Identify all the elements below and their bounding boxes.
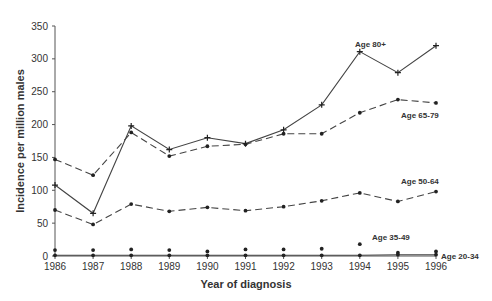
- y-axis-title: Incidence per million males: [14, 69, 26, 213]
- y-tick-label: 150: [31, 152, 48, 163]
- plus-marker-icon: [166, 147, 172, 153]
- x-tick-label: 1995: [387, 261, 410, 272]
- x-tick-label: 1992: [272, 261, 295, 272]
- y-tick-label: 200: [31, 119, 48, 130]
- dot-marker-icon: [282, 248, 286, 252]
- x-tick-label: 1986: [44, 261, 67, 272]
- series-line: [55, 192, 436, 225]
- series-label: Age 50-64: [401, 177, 439, 186]
- series-label: Age 65-79: [401, 111, 439, 120]
- x-axis-title: Year of diagnosis: [200, 278, 291, 290]
- dot-marker-icon: [206, 205, 210, 209]
- plus-marker-icon: [204, 135, 210, 141]
- series-age-65-79: Age 65-79: [53, 98, 439, 177]
- x-tick-label: 1994: [349, 261, 372, 272]
- x-tick-label: 1988: [120, 261, 143, 272]
- x-tick-label: 1991: [234, 261, 257, 272]
- dot-marker-icon: [244, 253, 248, 257]
- dot-marker-icon: [282, 253, 286, 257]
- x-tick-label: 1996: [425, 261, 448, 272]
- dot-marker-icon: [358, 253, 362, 257]
- dot-marker-icon: [320, 199, 324, 203]
- dot-marker-icon: [167, 248, 171, 252]
- dot-marker-icon: [320, 132, 324, 136]
- dot-marker-icon: [167, 209, 171, 213]
- dot-marker-icon: [358, 111, 362, 115]
- y-tick-label: 250: [31, 86, 48, 97]
- dot-marker-icon: [434, 253, 438, 257]
- dot-marker-icon: [434, 101, 438, 105]
- dot-marker-icon: [53, 158, 57, 162]
- dot-marker-icon: [167, 253, 171, 257]
- dot-marker-icon: [358, 191, 362, 195]
- dot-marker-icon: [91, 173, 95, 177]
- dot-marker-icon: [129, 253, 133, 257]
- dot-marker-icon: [434, 250, 438, 254]
- dot-marker-icon: [91, 253, 95, 257]
- series-age-50-64: Age 50-64: [53, 177, 439, 226]
- dot-marker-icon: [244, 248, 248, 252]
- dot-marker-icon: [244, 209, 248, 213]
- dot-marker-icon: [129, 131, 133, 135]
- x-tick-label: 1987: [82, 261, 105, 272]
- dot-marker-icon: [320, 247, 324, 251]
- series-line: [55, 100, 436, 176]
- dot-marker-icon: [358, 242, 362, 246]
- series-line: [55, 46, 436, 214]
- y-tick-label: 100: [31, 185, 48, 196]
- series-label: Age 35-49: [372, 233, 410, 242]
- dot-marker-icon: [91, 248, 95, 252]
- dot-marker-icon: [206, 250, 210, 254]
- y-tick-label: 50: [37, 218, 49, 229]
- dot-marker-icon: [53, 208, 57, 212]
- x-tick-label: 1990: [196, 261, 219, 272]
- series-group: Age 80+Age 65-79Age 50-64Age 35-49Age 20…: [52, 40, 479, 261]
- dot-marker-icon: [396, 253, 400, 257]
- dot-marker-icon: [129, 248, 133, 252]
- dot-marker-icon: [53, 253, 57, 257]
- dot-marker-icon: [282, 205, 286, 209]
- series-age-80-: Age 80+: [52, 40, 439, 216]
- x-tick-label: 1993: [311, 261, 334, 272]
- line-chart: 0501001502002503003501986198719881989199…: [0, 0, 492, 301]
- dot-marker-icon: [91, 223, 95, 227]
- dot-marker-icon: [282, 132, 286, 136]
- y-tick-label: 350: [31, 21, 48, 32]
- series-label: Age 20-34: [441, 252, 479, 261]
- y-tick-label: 300: [31, 53, 48, 64]
- x-tick-label: 1989: [158, 261, 181, 272]
- dot-marker-icon: [129, 202, 133, 206]
- series-age-35-49: Age 35-49: [53, 233, 438, 255]
- series-label: Age 80+: [355, 40, 386, 49]
- dot-marker-icon: [396, 98, 400, 102]
- plus-marker-icon: [128, 123, 134, 129]
- dot-marker-icon: [320, 253, 324, 257]
- dot-marker-icon: [434, 190, 438, 194]
- dot-marker-icon: [167, 154, 171, 158]
- dot-marker-icon: [206, 253, 210, 257]
- dot-marker-icon: [53, 248, 57, 252]
- dot-marker-icon: [206, 144, 210, 148]
- dot-marker-icon: [244, 142, 248, 146]
- y-tick-label: 0: [42, 251, 48, 262]
- dot-marker-icon: [396, 200, 400, 204]
